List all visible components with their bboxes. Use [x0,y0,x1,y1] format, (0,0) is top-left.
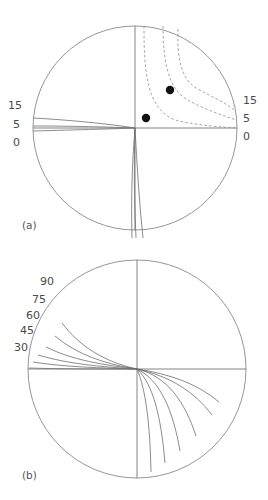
panel-b-radial-trace-90 [62,323,137,369]
panel-a-dashed-trace-5 [163,26,236,120]
panel-b-caption: (b) [22,469,37,481]
panel-b-left-tick-30: 30 [14,342,28,353]
figure-container: 15 5 0 15 5 0 (a) 90 75 60 45 30 (b) [0,0,268,500]
panel-b-radial-trace-30-mirror [137,369,165,463]
panel-a-left-tick-15: 15 [8,100,22,111]
panel-a-left-tick-5: 5 [13,119,20,130]
panel-a-solid-trace-bottom-15 [135,128,143,238]
panel-a-dashed-trace-15 [178,29,234,110]
panel-b-left-tick-45: 45 [20,325,34,336]
panel-a-right-tick-0: 0 [243,131,250,142]
panel-b-left-tick-75: 75 [32,294,46,305]
panel-b-left-tick-60: 60 [26,310,40,321]
panel-a-right-tick-15: 15 [243,95,257,106]
panel-b-left-tick-90: 90 [40,276,54,287]
panel-a-marker-point-1 [166,86,174,94]
panel-a-left-tick-0: 0 [13,137,20,148]
panel-b-radial-trace-75 [55,336,137,369]
panel-a-caption: (a) [22,219,37,231]
panel-a-right-tick-5: 5 [243,113,250,124]
panel-b-radial-trace-75-mirror [137,369,219,402]
panel-b-radial-trace-45-mirror [137,369,180,451]
panel-a-marker-point-2 [142,114,150,122]
panel-b-radial-trace-extra-mirror [137,369,151,472]
panel-a-plot [0,0,268,250]
panel-b-radial-trace-90-mirror [137,369,212,415]
